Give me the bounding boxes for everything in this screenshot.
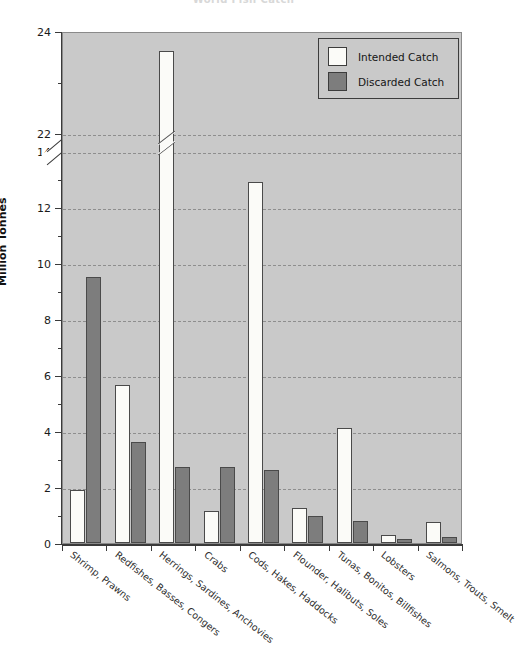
bar-intended — [426, 522, 441, 543]
y-tick-label: 12 — [37, 202, 51, 215]
y-tick-label: 8 — [44, 314, 51, 327]
y-tick-label: 6 — [44, 370, 51, 383]
legend-label-intended: Intended Catch — [358, 51, 438, 63]
bar-discarded — [264, 470, 279, 543]
x-tick — [284, 544, 285, 551]
bar-axis-break-marker — [160, 130, 173, 156]
x-tick — [418, 544, 419, 551]
x-tick — [106, 544, 107, 551]
plot-area — [62, 32, 462, 544]
bar-intended — [248, 182, 263, 543]
bar-intended — [204, 511, 219, 543]
legend-item-discarded: Discarded Catch — [328, 72, 444, 91]
y-tick-label: 0 — [44, 538, 51, 551]
bar-intended — [292, 508, 307, 543]
bar-intended — [381, 535, 396, 543]
y-tick-label: 10 — [37, 258, 51, 271]
x-tick — [373, 544, 374, 551]
bar-intended — [115, 385, 130, 543]
x-axis-label: Cods, Hakes, Haddocks — [246, 549, 340, 626]
y-tick-label: 4 — [44, 426, 51, 439]
bar-intended — [337, 428, 352, 543]
y-tick-label: 24 — [37, 26, 51, 39]
y-tick-major — [55, 544, 62, 545]
bar-discarded — [308, 516, 323, 543]
x-tick — [195, 544, 196, 551]
bar-discarded — [353, 521, 368, 543]
x-tick — [240, 544, 241, 551]
y-tick-label: 2 — [44, 482, 51, 495]
bar-intended — [159, 51, 174, 543]
bar-discarded — [131, 442, 146, 543]
x-tick — [462, 544, 463, 551]
x-tick — [62, 544, 63, 551]
x-axis-label: Crabs — [202, 549, 230, 575]
x-axis-line — [62, 544, 462, 546]
legend-swatch-intended — [328, 47, 347, 66]
bar-intended — [70, 490, 85, 543]
x-tick — [329, 544, 330, 551]
legend-label-discarded: Discarded Catch — [358, 76, 444, 88]
y-axis-title: Million Tonnes — [0, 197, 9, 286]
x-axis-label: Salmons, Trouts, Smelt — [424, 549, 516, 625]
legend-swatch-discarded — [328, 72, 347, 91]
legend: Intended Catch Discarded Catch — [318, 38, 459, 99]
bar-discarded — [175, 467, 190, 543]
bar-discarded — [220, 467, 235, 543]
x-tick — [151, 544, 152, 551]
bar-series-container — [63, 33, 461, 543]
x-axis-label: Lobsters — [380, 549, 419, 583]
bar-discarded — [397, 539, 412, 543]
y-axis-area: Million Tonnes 024681012142224 — [0, 0, 62, 576]
legend-item-intended: Intended Catch — [328, 47, 438, 66]
bar-discarded — [442, 537, 457, 543]
chart-title: World Fish Catch — [0, 0, 487, 5]
bar-discarded — [86, 277, 101, 543]
